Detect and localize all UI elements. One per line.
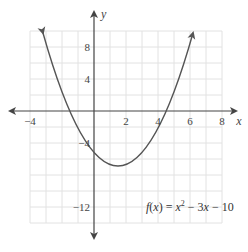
x-tick-label: 2 [123, 115, 129, 127]
x-tick-label: 4 [155, 115, 161, 127]
x-tick-label: 6 [187, 115, 193, 127]
parabola-curve [43, 33, 193, 166]
y-tick-label: 4 [85, 73, 91, 85]
x-tick-label: 8 [219, 115, 225, 127]
y-axis-label: y [100, 7, 107, 21]
x-tick-label: −4 [24, 115, 36, 127]
y-tick-label: −4 [78, 137, 90, 149]
function-label: f(x) = x2 − 3x − 10 [146, 199, 234, 214]
grid [30, 31, 222, 223]
function-graph: −4 2 4 6 8 8 4 −4 −12 x y f(x) = x2 − 3x… [0, 0, 248, 252]
y-tick-label: −12 [73, 201, 90, 213]
y-tick-label: 8 [85, 41, 91, 53]
x-axis-label: x [235, 114, 242, 128]
